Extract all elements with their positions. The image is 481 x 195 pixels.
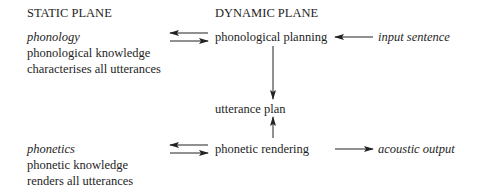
arrows-layer [0,0,481,195]
